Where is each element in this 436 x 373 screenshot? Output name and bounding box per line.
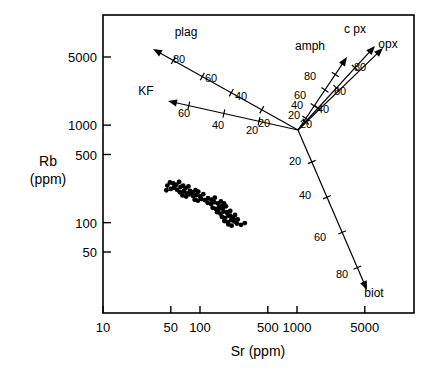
vector-tick-label-cpx-60: 60	[334, 85, 346, 97]
data-point-cloud	[164, 179, 247, 228]
vector-tick-label-biot-60: 60	[314, 231, 326, 243]
y-tick-label-1000: 1000	[68, 118, 97, 133]
vector-tick-label-cpx-80: 80	[354, 61, 366, 73]
x-tick-label-5000: 5000	[350, 320, 379, 335]
y-tick-label-5000: 5000	[68, 50, 97, 65]
arrowhead-KF	[168, 99, 178, 106]
vector-tick-label-biot-80: 80	[336, 268, 348, 280]
vector-tick-label-cpx-40: 40	[317, 103, 329, 115]
arrowhead-plag	[153, 49, 163, 57]
data-point	[177, 179, 182, 184]
y-axis-title-line1: Rb	[39, 153, 57, 169]
vector-tick-plag-40	[229, 89, 233, 96]
vector-tick-label-KF-20: 20	[246, 124, 258, 136]
x-tick-label-50: 50	[164, 320, 178, 335]
data-point	[164, 188, 169, 193]
data-point	[242, 221, 247, 226]
data-point	[229, 223, 234, 228]
vector-tick-plag-60	[200, 73, 204, 80]
fractionation-vectors	[153, 46, 383, 290]
x-axis-tick-labels: 105010050010005000	[96, 320, 379, 335]
data-point	[212, 195, 217, 200]
vector-tick-amph-80	[332, 72, 339, 77]
y-tick-label-50: 50	[83, 245, 97, 260]
vector-tick-label-KF-40: 40	[212, 119, 224, 131]
plot-frame	[103, 15, 414, 313]
vector-tick-label-amph-60: 60	[294, 89, 306, 101]
vector-label-opx: opx	[378, 37, 397, 51]
vector-tick-label-plag-60: 60	[205, 72, 217, 84]
y-axis-title-line2: (ppm)	[30, 171, 67, 187]
vector-tick-label-biot-40: 40	[299, 189, 311, 201]
vector-label-biot: biot	[364, 286, 384, 300]
y-axis-ticks	[103, 57, 111, 252]
data-point	[186, 184, 191, 189]
vector-label-KF: KF	[138, 84, 153, 98]
x-axis-title: Sr (ppm)	[231, 343, 285, 359]
vector-tick-label-plag-40: 40	[235, 90, 247, 102]
x-tick-label-10: 10	[96, 320, 110, 335]
vector-biot	[298, 130, 367, 290]
arrowhead-amph	[339, 57, 347, 66]
vector-label-cpx: c px	[344, 22, 366, 36]
x-tick-label-1000: 1000	[283, 320, 312, 335]
data-point	[234, 221, 239, 226]
vector-tick-label-plag-80: 80	[173, 53, 185, 65]
vector-tick-label-KF-60: 60	[178, 107, 190, 119]
x-axis-ticks	[103, 306, 365, 313]
x-tick-label-100: 100	[189, 320, 211, 335]
vector-tick-amph-60	[321, 88, 328, 93]
data-point	[201, 192, 206, 197]
x-tick-label-500: 500	[257, 320, 279, 335]
data-point	[231, 216, 236, 221]
y-axis-tick-labels: 5010050010005000	[68, 50, 97, 260]
data-point	[216, 207, 221, 212]
rb-sr-scatter-chart: 105010050010005000 5010050010005000 plag…	[0, 0, 436, 373]
y-tick-label-500: 500	[75, 148, 97, 163]
vector-tick-plag-20	[260, 106, 264, 113]
vector-tick-label-plag-20: 20	[258, 117, 270, 129]
fractionation-vector-tick-labels: 20406080204060204060802040608020406080	[173, 53, 366, 280]
vector-tick-label-biot-20: 20	[289, 155, 301, 167]
vector-label-plag: plag	[175, 25, 198, 39]
data-point	[219, 204, 224, 209]
vector-tick-label-cpx-20: 20	[300, 118, 312, 130]
data-point	[224, 210, 229, 215]
chart-figure: 105010050010005000 5010050010005000 plag…	[0, 0, 436, 373]
y-tick-label-100: 100	[75, 216, 97, 231]
vector-label-amph: amph	[295, 39, 325, 53]
data-point	[235, 217, 240, 222]
vector-tick-label-amph-80: 80	[304, 70, 316, 82]
